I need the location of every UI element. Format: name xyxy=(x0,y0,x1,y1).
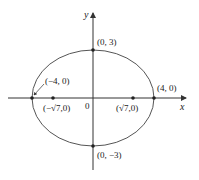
top-vertex-point xyxy=(91,48,95,52)
right-focus-label: (√7,0) xyxy=(116,103,138,113)
y-axis-label: y xyxy=(83,9,89,20)
left-focus-label: (−√7,0) xyxy=(43,103,70,113)
top-vertex-label: (0, 3) xyxy=(97,37,117,47)
x-axis-label: x xyxy=(179,101,185,112)
right-focus-point xyxy=(131,96,135,100)
left-vertex-label: (−4, 0) xyxy=(45,76,70,86)
ellipse-diagram: y x 0 (0, 3) (0, −3) (−4, 0) (4, 0) (−√7… xyxy=(0,0,199,180)
left-vertex-point xyxy=(30,96,34,100)
bottom-vertex-label: (0, −3) xyxy=(97,150,122,160)
left-focus-point xyxy=(51,96,55,100)
right-vertex-label: (4, 0) xyxy=(157,83,177,93)
left-vertex-leader xyxy=(34,84,44,95)
bottom-vertex-point xyxy=(91,144,95,148)
origin-label: 0 xyxy=(85,101,90,111)
right-vertex-point xyxy=(152,96,156,100)
